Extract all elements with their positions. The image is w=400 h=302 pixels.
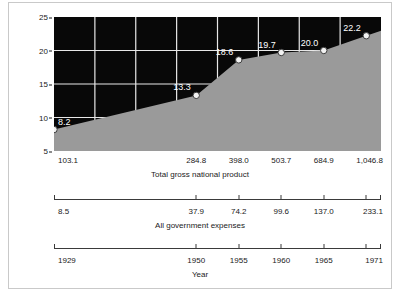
y-tick-label: 5 — [44, 147, 48, 156]
y-tick-label: 20 — [39, 46, 48, 55]
axis-tick-label: 1,046.8 — [356, 156, 383, 165]
data-point-marker[interactable] — [193, 92, 199, 98]
axis-tick-label: 1950 — [187, 256, 205, 265]
data-point-label: 22.2 — [343, 23, 361, 33]
axis-end-cap — [380, 244, 381, 249]
axis-tick-label: 1960 — [272, 256, 290, 265]
y-tick-label: 10 — [39, 113, 48, 122]
axis-tick-mark — [238, 244, 239, 249]
axis-tick-mark — [196, 244, 197, 249]
data-point-marker[interactable] — [278, 49, 284, 55]
axis-tick-label: 74.2 — [231, 207, 247, 216]
axis-tick-mark — [281, 244, 282, 249]
axis-tick-mark — [323, 195, 324, 200]
axis-tick-label: 1965 — [315, 256, 333, 265]
axis-tick-label: 398.0 — [229, 156, 249, 165]
axis-tick-mark — [196, 195, 197, 200]
data-point-marker[interactable] — [236, 57, 242, 63]
y-tick-label: 25 — [39, 13, 48, 22]
axis-tick-mark — [281, 195, 282, 200]
axis-tick-label: 37.9 — [188, 207, 204, 216]
axis-tick-label: 1971 — [365, 256, 383, 265]
plot-svg: 8.213.318.619.720.022.2 — [54, 17, 381, 151]
data-point-marker[interactable] — [54, 126, 57, 132]
data-point-label: 13.3 — [173, 82, 191, 92]
y-tick-label: 15 — [39, 80, 48, 89]
data-point-marker[interactable] — [363, 33, 369, 39]
axis-tick-label: 1929 — [58, 256, 76, 265]
axis-tick-label: 684.9 — [314, 156, 334, 165]
data-point-label: 18.6 — [216, 47, 234, 57]
axis-tick-label: 103.1 — [58, 156, 78, 165]
plot-area: 8.213.318.619.720.022.2 — [54, 17, 381, 151]
axis-caption: Total gross national product — [0, 170, 400, 179]
axis-end-cap — [54, 244, 55, 249]
axis-line — [54, 248, 381, 249]
data-point-label: 20.0 — [301, 38, 319, 48]
axis-tick-mark — [366, 244, 367, 249]
axis-tick-label: 233.1 — [363, 207, 383, 216]
axis-caption: All government expenses — [0, 221, 400, 230]
chart-figure: Percent government spends of total gross… — [0, 0, 400, 302]
axis-tick-label: 99.6 — [273, 207, 289, 216]
data-point-marker[interactable] — [321, 47, 327, 53]
axis-caption: Year — [0, 270, 400, 279]
axis-end-cap — [380, 195, 381, 200]
axis-tick-mark — [323, 244, 324, 249]
axis-tick-mark — [366, 195, 367, 200]
axis-tick-label: 503.7 — [271, 156, 291, 165]
data-point-label: 19.7 — [258, 40, 276, 50]
axis-tick-label: 1955 — [230, 256, 248, 265]
axis-tick-label: 8.5 — [58, 207, 69, 216]
axis-tick-mark — [238, 195, 239, 200]
axis-line — [54, 199, 381, 200]
y-axis-ticks: 252015105 — [26, 0, 52, 302]
data-point-label: 8.2 — [58, 117, 71, 127]
axis-tick-label: 284.8 — [186, 156, 206, 165]
axis-end-cap — [54, 195, 55, 200]
axis-tick-label: 137.0 — [314, 207, 334, 216]
